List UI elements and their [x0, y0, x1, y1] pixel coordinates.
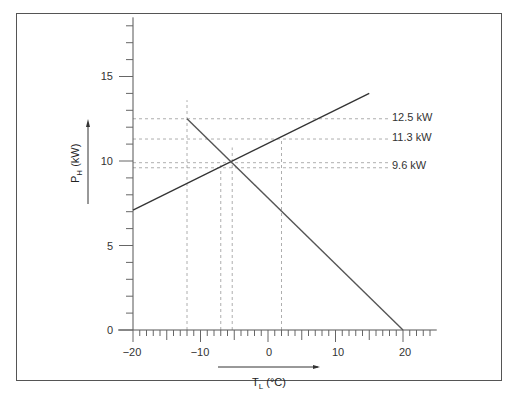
annotation-11-3: 11.3 kW	[392, 131, 432, 143]
arrow-right-icon	[313, 365, 320, 369]
series-line-1	[133, 93, 369, 210]
x-tick-10: 10	[332, 346, 344, 358]
y-tick-10: 10	[101, 155, 113, 167]
reference-lines	[133, 100, 388, 330]
y-tick-15: 15	[101, 70, 113, 82]
x-label-unit: (°C)	[263, 376, 286, 388]
axes	[118, 17, 437, 342]
x-tick-0: 0	[266, 346, 272, 358]
annotation-12-5: 12.5 kW	[392, 111, 433, 123]
y-tick-0: 0	[107, 324, 113, 336]
y-tick-labels: 0 5 10 15	[101, 70, 113, 336]
x-tick-20: 20	[399, 346, 411, 358]
chart: 12.5 kW 11.3 kW 9.6 kW 0 5 10 15 −20 −10…	[0, 0, 515, 404]
x-tick-labels: −20 −10 0 10 20	[123, 346, 411, 358]
series-line-2	[187, 119, 403, 330]
x-tick-neg20: −20	[123, 346, 142, 358]
y-axis-title: PH (kW)	[69, 119, 90, 204]
annotations: 12.5 kW 11.3 kW 9.6 kW	[392, 111, 433, 171]
y-label-unit: (kW)	[69, 144, 81, 170]
svg-text:TL (°C): TL (°C)	[252, 376, 286, 391]
x-tick-neg10: −10	[191, 346, 210, 358]
y-tick-5: 5	[107, 240, 113, 252]
annotation-9-6: 9.6 kW	[392, 159, 427, 171]
y-label-main: P	[69, 176, 81, 183]
data-series	[133, 93, 403, 330]
arrow-up-icon	[86, 119, 90, 127]
x-axis-title: TL (°C)	[218, 365, 320, 391]
svg-text:PH (kW): PH (kW)	[69, 144, 84, 183]
